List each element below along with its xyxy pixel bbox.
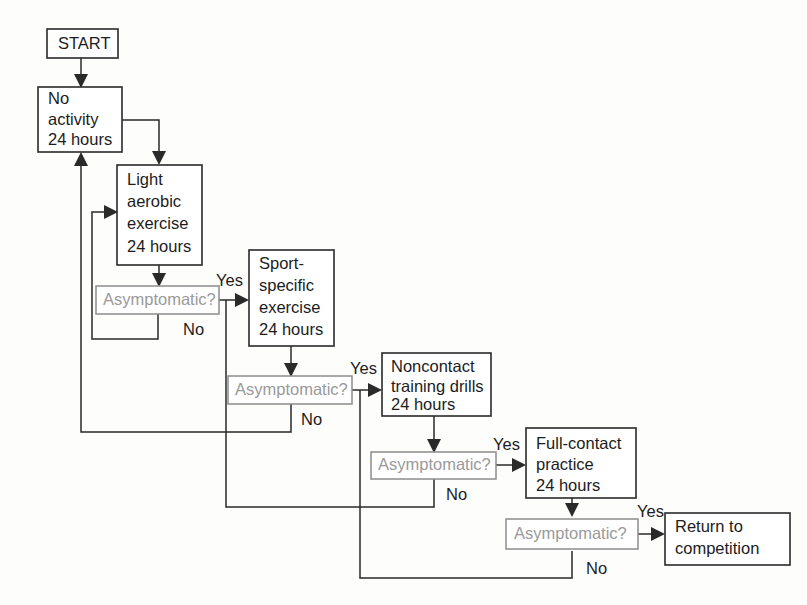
branch-label-yes-3: Yes — [493, 435, 520, 453]
decision-asymptomatic-3-label: Asymptomatic? — [378, 455, 491, 473]
node-light-aerobic-line1: Light — [127, 170, 163, 188]
arrow-head-noncontact-left — [368, 383, 382, 397]
node-sport-specific-line1: Sport- — [259, 254, 304, 272]
connector-layer — [74, 58, 665, 578]
node-sport-specific-line2: specific — [259, 276, 314, 294]
flowchart-canvas: START No activity 24 hours Light aerobic… — [0, 0, 807, 605]
node-noncontact-line3: 24 hours — [391, 395, 455, 413]
node-noncontact-line1: Noncontact — [391, 357, 475, 375]
arrow-head-d2-top — [284, 363, 298, 377]
arrow-head-d1-top — [152, 273, 166, 287]
node-light-aerobic-line4: 24 hours — [127, 237, 191, 255]
node-full-contact-line3: 24 hours — [536, 476, 600, 494]
branch-label-no-3: No — [446, 485, 467, 503]
node-return-line1: Return to — [675, 517, 743, 535]
arrow-head-fullcontact-left — [512, 458, 526, 472]
node-light-aerobic-line2: aerobic — [127, 192, 181, 210]
node-noncontact-line2: training drills — [391, 377, 484, 395]
decision-asymptomatic-1-label: Asymptomatic? — [103, 290, 216, 308]
decision-asymptomatic-2-label: Asymptomatic? — [235, 380, 348, 398]
branch-label-yes-1: Yes — [216, 271, 243, 289]
arrow-head-lightaerobic-top — [152, 151, 166, 165]
node-no-activity-line3: 24 hours — [48, 130, 112, 148]
arrow-head-lightaerobic-left — [104, 205, 118, 219]
decision-asymptomatic-4-label: Asymptomatic? — [514, 524, 627, 542]
branch-label-yes-4: Yes — [637, 502, 664, 520]
node-light-aerobic-line3: exercise — [127, 214, 188, 232]
node-no-activity-line2: activity — [48, 110, 99, 128]
arrow-head-noactivity-top — [74, 74, 88, 88]
branch-label-no-4: No — [586, 559, 607, 577]
branch-label-yes-2: Yes — [350, 359, 377, 377]
arrow-head-noactivity-bottom — [74, 152, 88, 166]
node-return-line2: competition — [675, 539, 759, 557]
node-full-contact-line2: practice — [536, 455, 594, 473]
arrow-head-d3-top — [427, 439, 441, 453]
decision-layer: Asymptomatic? Asymptomatic? Asymptomatic… — [96, 286, 638, 549]
node-sport-specific-line3: exercise — [259, 298, 320, 316]
arrow-head-sportspecific-left — [235, 293, 249, 307]
node-full-contact-line1: Full-contact — [536, 434, 622, 452]
node-no-activity-line1: No — [48, 89, 69, 107]
arrow-head-d4-top — [565, 503, 579, 517]
node-sport-specific-line4: 24 hours — [259, 320, 323, 338]
node-start-label: START — [58, 34, 111, 52]
branch-label-no-2: No — [301, 410, 322, 428]
branch-label-no-1: No — [183, 320, 204, 338]
arrow-head-return-left — [651, 527, 665, 541]
flowchart-svg: START No activity 24 hours Light aerobic… — [0, 0, 807, 605]
